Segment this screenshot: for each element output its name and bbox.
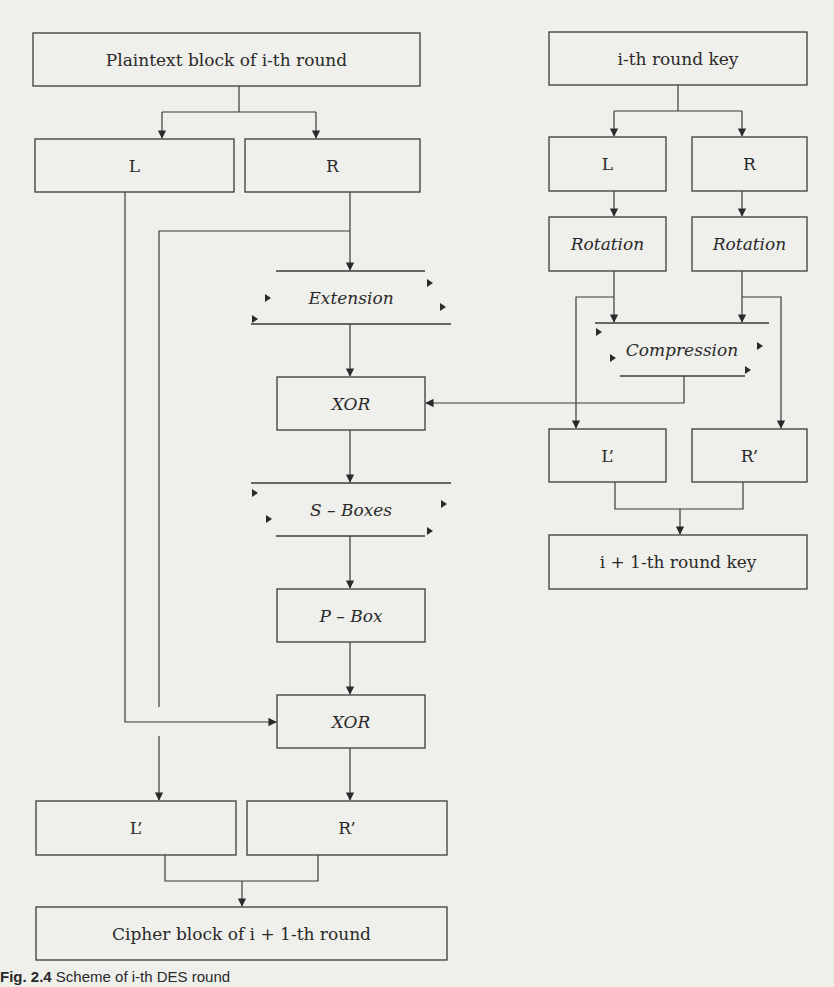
plaintext-label: Plaintext block of i-th round bbox=[33, 33, 420, 86]
rotation-left-label: Rotation bbox=[549, 217, 666, 271]
right-out-label: R’ bbox=[247, 801, 447, 855]
figure-caption: Fig. 2.4 Scheme of i-th DES round bbox=[0, 968, 230, 985]
sboxes-label: S – Boxes bbox=[251, 483, 451, 536]
cipher-label: Cipher block of i + 1-th round bbox=[36, 907, 447, 960]
pbox-label: P – Box bbox=[277, 589, 425, 642]
round-key-label: i-th round key bbox=[549, 32, 807, 85]
key-left-label: L bbox=[549, 137, 666, 191]
key-right-label: R bbox=[692, 137, 807, 191]
left-label: L bbox=[35, 139, 234, 192]
extension-label: Extension bbox=[251, 271, 451, 324]
xor2-label: XOR bbox=[277, 695, 425, 748]
key-right-out-label: R’ bbox=[692, 429, 807, 482]
compression-label: Compression bbox=[595, 323, 769, 376]
xor1-label: XOR bbox=[277, 377, 425, 430]
caption-text: Scheme of i-th DES round bbox=[56, 968, 230, 985]
right-label: R bbox=[245, 139, 420, 192]
key-left-out-label: L’ bbox=[549, 429, 666, 482]
caption-label: Fig. 2.4 bbox=[0, 968, 52, 985]
left-out-label: L’ bbox=[36, 801, 236, 855]
rotation-right-label: Rotation bbox=[692, 217, 807, 271]
next-key-label: i + 1-th round key bbox=[549, 535, 807, 589]
